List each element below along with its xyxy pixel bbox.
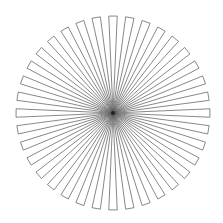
center-hub: [111, 111, 115, 115]
radial-star-diagram: [0, 0, 223, 223]
